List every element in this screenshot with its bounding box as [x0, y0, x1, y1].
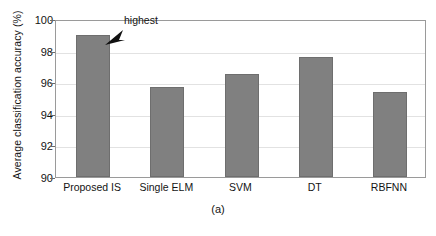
bar [150, 87, 184, 177]
x-axis-tick-label: RBFNN [371, 181, 407, 193]
x-axis-tick-label: DT [308, 181, 322, 193]
y-axis-tick-label: 90 [23, 172, 53, 184]
x-axis-tick-label: SVM [229, 181, 252, 193]
y-axis-tick-label: 100 [23, 14, 53, 26]
y-axis-tick-label: 94 [23, 109, 53, 121]
arrow-down-left-icon [103, 28, 129, 48]
y-axis-title: Average classification accuracy (%) [11, 5, 23, 185]
gridline [56, 53, 425, 54]
x-axis-tick-label: Single ELM [139, 181, 193, 193]
bar [299, 57, 333, 177]
x-axis-tick-label: Proposed IS [63, 181, 121, 193]
y-axis-tick-label: 92 [23, 140, 53, 152]
figure-caption: (a) [0, 203, 436, 215]
y-axis-tick-mark [50, 178, 55, 179]
bar [225, 74, 259, 177]
bar [373, 92, 407, 177]
y-axis-tick-label: 96 [23, 77, 53, 89]
y-axis-tick-label: 98 [23, 46, 53, 58]
figure-bar-chart: Average classification accuracy (%) 9092… [0, 0, 436, 236]
annotation-label-highest: highest [124, 14, 158, 26]
bar [76, 35, 110, 177]
